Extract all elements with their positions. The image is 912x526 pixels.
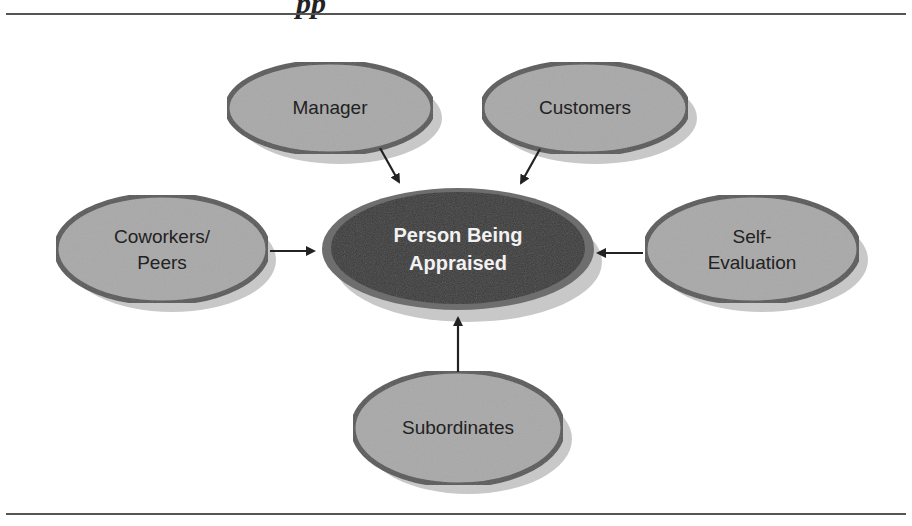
arrow-customers-to-center bbox=[521, 149, 540, 183]
label-line-2: Appraised bbox=[409, 249, 507, 277]
center-node-label: Person Being Appraised bbox=[331, 218, 585, 280]
label-line: Subordinates bbox=[402, 415, 514, 441]
label-line: Customers bbox=[539, 95, 631, 121]
label-line-1: Person Being bbox=[394, 221, 523, 249]
node-coworkers-label: Coworkers/ Peers bbox=[56, 220, 268, 280]
label-line-2: Evaluation bbox=[708, 250, 797, 276]
node-manager-label: Manager bbox=[227, 84, 433, 132]
label-line: Manager bbox=[293, 95, 368, 121]
label-line-1: Coworkers/ bbox=[114, 224, 210, 250]
node-self-evaluation-label: Self- Evaluation bbox=[645, 220, 859, 280]
label-line-2: Peers bbox=[137, 250, 187, 276]
label-line-1: Self- bbox=[732, 224, 771, 250]
node-subordinates-label: Subordinates bbox=[353, 404, 563, 452]
node-customers-label: Customers bbox=[482, 84, 688, 132]
